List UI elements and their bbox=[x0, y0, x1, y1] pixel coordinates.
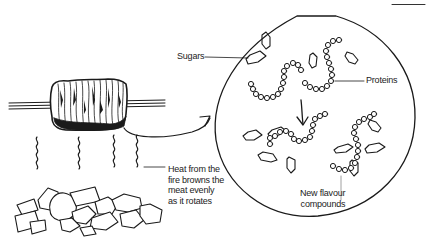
new-compounds-line: compounds bbox=[300, 199, 345, 210]
heat-caption-line: as it rotates bbox=[168, 196, 224, 207]
heat-waves-icon bbox=[36, 135, 138, 169]
sugars-leader-line bbox=[205, 57, 248, 58]
sugars-label: Sugars bbox=[177, 51, 204, 62]
proteins-label: Proteins bbox=[366, 75, 397, 86]
new-compounds-line: New flavour bbox=[300, 188, 345, 199]
heat-caption-line: fire browns the bbox=[168, 175, 224, 186]
heat-caption-line: meat evenly bbox=[168, 185, 224, 196]
meat-icon bbox=[51, 79, 128, 130]
fire-coals-icon bbox=[15, 187, 162, 236]
new-compounds-label: New flavour compounds bbox=[300, 188, 345, 209]
heat-caption-line: Heat from the bbox=[168, 164, 224, 175]
heat-caption: Heat from the fire browns the meat evenl… bbox=[168, 164, 224, 206]
curved-arrow-icon bbox=[124, 116, 210, 137]
